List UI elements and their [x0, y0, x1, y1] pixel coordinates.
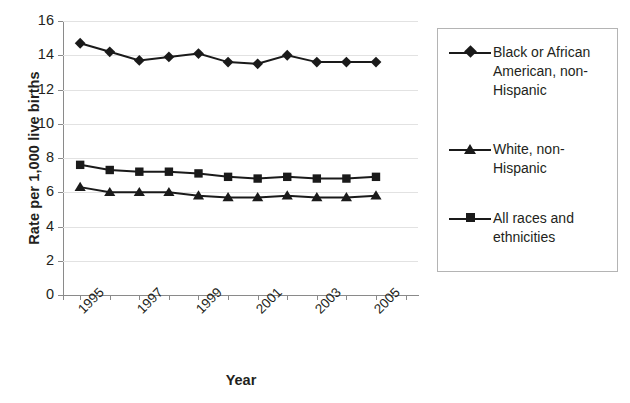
x-tick	[228, 295, 229, 300]
data-point-square	[165, 168, 173, 176]
data-point-square	[76, 161, 84, 169]
x-tick	[110, 295, 111, 300]
data-point-square	[372, 173, 380, 181]
y-tick-label: 12	[26, 82, 54, 97]
data-point-triangle	[75, 182, 86, 191]
plot-area	[63, 21, 418, 295]
x-axis-line	[63, 295, 419, 296]
data-point-square	[135, 168, 143, 176]
x-tick	[169, 295, 170, 300]
data-point-square	[253, 174, 261, 182]
data-point-square	[342, 174, 350, 182]
data-point-diamond	[223, 57, 234, 68]
data-point-square	[313, 174, 321, 182]
data-point-diamond	[164, 52, 175, 63]
y-tick-label: 4	[26, 219, 54, 234]
x-tick	[406, 295, 407, 300]
y-tick-label: 8	[26, 150, 54, 165]
legend-item[interactable]: White, non-Hispanic	[447, 140, 611, 178]
x-axis-title: Year	[63, 372, 419, 388]
x-tick	[287, 295, 288, 300]
y-tick-label: 6	[26, 184, 54, 199]
y-tick-label: 2	[26, 253, 54, 268]
data-point-diamond	[371, 57, 382, 68]
y-tick-label: 16	[26, 13, 54, 28]
x-tick	[346, 295, 347, 300]
data-point-square	[283, 173, 291, 181]
data-point-diamond	[341, 57, 352, 68]
legend-square-icon	[447, 210, 493, 228]
y-tick-label: 0	[26, 287, 54, 302]
legend-label: Black or African American, non-Hispanic	[493, 43, 611, 100]
legend-diamond-icon	[447, 44, 493, 62]
series-lines	[63, 21, 418, 295]
y-tick-label: 14	[26, 47, 54, 62]
data-point-diamond	[193, 48, 204, 59]
data-point-diamond	[252, 58, 263, 69]
legend-item[interactable]: All races and ethnicities	[447, 209, 611, 247]
legend-label: All races and ethnicities	[493, 209, 611, 247]
data-point-diamond	[311, 57, 322, 68]
data-point-diamond	[104, 46, 115, 57]
chart-legend: Black or African American, non-HispanicW…	[437, 28, 618, 272]
legend-triangle-icon	[447, 141, 493, 159]
data-point-diamond	[134, 55, 145, 66]
data-point-square	[194, 169, 202, 177]
data-point-square	[106, 166, 114, 174]
y-tick-label: 10	[26, 116, 54, 131]
x-tick-origin	[63, 295, 64, 300]
data-point-square	[224, 173, 232, 181]
data-point-diamond	[282, 50, 293, 61]
legend-label: White, non-Hispanic	[493, 140, 611, 178]
chart-canvas: Rate per 1,000 live births 1614121086420…	[0, 0, 630, 403]
legend-item[interactable]: Black or African American, non-Hispanic	[447, 43, 611, 100]
data-point-diamond	[75, 38, 86, 49]
